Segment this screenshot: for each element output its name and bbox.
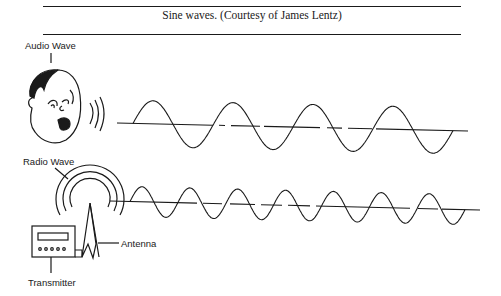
audio-wave <box>117 101 468 153</box>
antenna-icon <box>82 203 99 258</box>
radio-wave-curve <box>130 187 465 225</box>
radio-wave-baseline <box>110 201 480 210</box>
sine-wave-figure <box>0 0 501 296</box>
radio-wave <box>110 187 480 225</box>
radio-label-leader <box>55 168 68 179</box>
radio-waves-icon <box>56 165 124 215</box>
sound-waves-icon <box>90 97 104 131</box>
face-icon <box>29 70 81 143</box>
audio-wave-curve <box>133 101 453 153</box>
transmitter-icon <box>32 226 82 273</box>
